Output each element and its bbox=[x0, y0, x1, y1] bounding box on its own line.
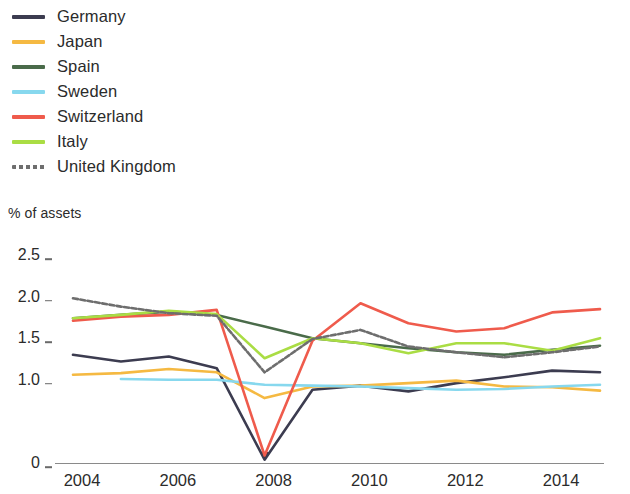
series-line-spain bbox=[73, 312, 600, 355]
chart-series-layer bbox=[0, 0, 630, 494]
series-line-japan bbox=[73, 369, 600, 398]
chart-plot-area: 01.01.52.02.5 200420062008201020122014 bbox=[0, 0, 630, 494]
chart-page: Germany Japan Spain Sweden Switzerland I… bbox=[0, 0, 630, 494]
series-line-united-kingdom bbox=[73, 298, 600, 372]
